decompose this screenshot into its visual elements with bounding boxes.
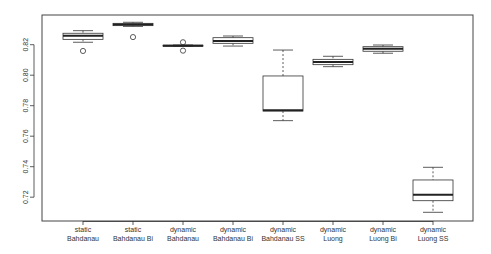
- box-dynamic-bahdanau-bi: [213, 36, 253, 46]
- box-static-bahdanau: [63, 31, 103, 54]
- y-tick-label: 0.76: [22, 129, 29, 143]
- y-tick-label: 0.78: [22, 99, 29, 113]
- outlier-point: [80, 48, 85, 53]
- x-tick-label-line2: Luong SS: [418, 235, 449, 243]
- boxplot-chart: 0.720.740.760.780.800.82 staticBahdanaus…: [0, 0, 491, 254]
- x-tick-label-line2: Luong Bi: [369, 235, 397, 243]
- x-tick-label-line1: dynamic: [370, 226, 397, 234]
- x-tick-label-line1: dynamic: [420, 226, 447, 234]
- x-tick-label-line2: Bahdanau Bi: [213, 235, 254, 242]
- plot-frame: [42, 15, 473, 221]
- outlier-point: [130, 34, 135, 39]
- boxes: [63, 22, 453, 212]
- iqr-box: [413, 180, 453, 201]
- box-dynamic-bahdanau-ss: [263, 50, 303, 121]
- y-tick-label: 0.74: [22, 160, 29, 174]
- box-dynamic-luong-ss: [413, 167, 453, 212]
- iqr-box: [263, 76, 303, 111]
- x-tick-label-line2: Luong: [323, 235, 343, 243]
- outlier-point: [180, 48, 185, 53]
- box-dynamic-luong: [313, 56, 353, 66]
- x-tick-label-line1: dynamic: [270, 226, 297, 234]
- outlier-point: [180, 40, 185, 45]
- x-axis: staticBahdanaustaticBahdanau BidynamicBa…: [67, 221, 449, 243]
- box-dynamic-luong-bi: [363, 45, 403, 53]
- y-tick-label: 0.80: [22, 68, 29, 82]
- x-tick-label-line1: static: [125, 226, 142, 233]
- x-tick-label-line2: Bahdanau: [167, 235, 199, 242]
- x-tick-label-line2: Bahdanau Bi: [113, 235, 154, 242]
- x-tick-label-line1: dynamic: [320, 226, 347, 234]
- box-static-bahdanau-bi: [113, 22, 153, 39]
- x-tick-label-line2: Bahdanau: [67, 235, 99, 242]
- x-tick-label-line1: dynamic: [170, 226, 197, 234]
- x-tick-label-line2: Bahdanau SS: [261, 235, 305, 242]
- box-dynamic-bahdanau: [163, 40, 203, 54]
- y-axis: 0.720.740.760.780.800.82: [22, 38, 34, 204]
- y-tick-label: 0.72: [22, 190, 29, 204]
- y-tick-label: 0.82: [22, 38, 29, 52]
- x-tick-label-line1: dynamic: [220, 226, 247, 234]
- x-tick-label-line1: static: [75, 226, 92, 233]
